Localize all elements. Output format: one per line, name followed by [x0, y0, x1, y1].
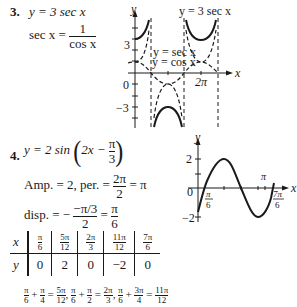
sine-graph: y x 2 0 −2 π π 6 7π 6 [0, 130, 297, 230]
x-axis-label: x [234, 66, 241, 80]
cell-den: 12 [60, 242, 69, 252]
cell-den: 6 [38, 242, 43, 252]
table-cell: 2π3 [78, 231, 104, 254]
tick-7pi6-num: 7π [273, 189, 283, 199]
table-row-y: y 0 2 0 −2 0 [10, 254, 160, 277]
tick-pi6-num: π [206, 189, 211, 199]
tick-pi6-den: 6 [206, 200, 211, 210]
label-3-sec: y = 3 sec x [179, 4, 231, 18]
table-cell: 2 [52, 254, 78, 277]
x-axis-label: x [290, 181, 297, 195]
tick-0: 0 [187, 185, 193, 199]
f-den: 6 [24, 295, 29, 305]
footer-sums: π6 + π4 = 5π12, π6 + π2 = 2π3, π6 + 3π4 … [24, 286, 168, 305]
f-den: 4 [134, 295, 143, 305]
table-cell: π6 [28, 231, 52, 254]
cell-num: π [38, 233, 43, 242]
f-den: 12 [155, 295, 168, 305]
table-cell: 5π12 [52, 231, 78, 254]
f-num: π [71, 286, 76, 295]
cell-num: 2π [86, 233, 95, 242]
f-den: 3 [104, 295, 113, 305]
table-cell: 0 [135, 254, 161, 277]
f-num: 11π [155, 286, 168, 295]
label-cos: y = cos x [152, 55, 196, 69]
cell-den: 12 [113, 242, 126, 252]
tick-3: 3 [124, 38, 130, 52]
f-num: 3π [134, 286, 143, 295]
cell-den: 6 [143, 242, 152, 252]
table-cell: 7π6 [135, 231, 161, 254]
cell-num: 7π [143, 233, 152, 242]
cell-num: 11π [113, 233, 126, 242]
value-table: x π6 5π12 2π3 11π12 7π6 y 0 2 0 −2 0 [10, 231, 160, 276]
f-den: 12 [57, 295, 66, 305]
f-den: 2 [87, 295, 92, 305]
table-y-label: y [10, 254, 28, 277]
x-axis-arrow-icon [226, 71, 233, 76]
tick-7pi6-den: 6 [275, 200, 280, 210]
f-num: π [24, 286, 29, 295]
table-x-label: x [10, 231, 28, 254]
f-num: π [40, 286, 45, 295]
secant-graph: y x y = 3 sec x y = sec x y = cos x 3 0 … [0, 0, 297, 135]
f-num: π [87, 286, 92, 295]
f-num: 2π [104, 286, 113, 295]
table-row-x: x π6 5π12 2π3 11π12 7π6 [10, 231, 160, 254]
table-cell: −2 [104, 254, 135, 277]
f-num: π [118, 286, 123, 295]
tick-neg2: −2 [182, 211, 195, 225]
table-cell: 0 [78, 254, 104, 277]
table-cell: 0 [28, 254, 52, 277]
x-axis-arrow-icon [282, 186, 289, 191]
cell-num: 5π [60, 233, 69, 242]
tick-neg3: −3 [116, 101, 129, 115]
cell-den: 3 [86, 242, 95, 252]
f-den: 6 [118, 295, 123, 305]
tick-pi: π [261, 171, 267, 182]
y-axis-label: y [130, 2, 137, 16]
tick-0: 0 [123, 78, 129, 92]
f-den: 6 [71, 295, 76, 305]
tick-2: 2 [186, 152, 192, 166]
y-axis-label: y [194, 130, 201, 144]
f-num: 5π [57, 286, 66, 295]
table-cell: 11π12 [104, 231, 135, 254]
tick-2pi: 2π [195, 75, 208, 89]
f-den: 4 [40, 295, 45, 305]
